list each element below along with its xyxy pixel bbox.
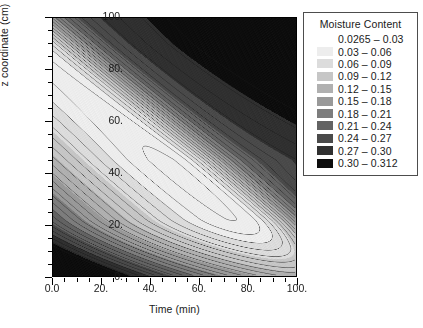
legend-entry: 0.18 – 0.21: [309, 107, 412, 119]
legend-color-swatch: [317, 146, 333, 155]
y-minor-tick-mark: [48, 199, 52, 200]
y-minor-tick-mark: [48, 95, 52, 96]
legend-color-swatch: [317, 109, 333, 118]
y-tick-mark: [45, 17, 52, 18]
y-tick-mark: [45, 173, 52, 174]
x-minor-tick-mark: [89, 278, 90, 282]
legend-entry: 0.06 – 0.09: [309, 58, 412, 70]
x-minor-tick-mark: [224, 278, 225, 282]
legend-entry: 0.24 – 0.27: [309, 132, 412, 144]
legend-entry-label: 0.06 – 0.09: [338, 58, 392, 70]
legend-color-swatch: [317, 121, 333, 130]
plot-area: [52, 17, 297, 277]
legend-entry-label: 0.30 – 0.312: [338, 157, 398, 169]
x-minor-tick-mark: [236, 278, 237, 282]
x-tick-label: 40.: [127, 282, 173, 294]
y-minor-tick-mark: [48, 147, 52, 148]
legend-entry: 0.12 – 0.15: [309, 83, 412, 95]
y-minor-tick-mark: [48, 251, 52, 252]
x-minor-tick-mark: [138, 278, 139, 282]
legend-color-swatch: [317, 159, 333, 168]
y-axis-title: z coordinate (cm): [0, 0, 10, 105]
moisture-heatmap-canvas: [53, 18, 296, 276]
legend-entry: 0.0265 – 0.03: [309, 33, 412, 45]
legend-title: Moisture Content: [309, 18, 412, 30]
x-tick-label: 20.: [78, 282, 124, 294]
y-minor-tick-mark: [48, 160, 52, 161]
legend-entry-label: 0.18 – 0.21: [338, 108, 392, 120]
x-minor-tick-mark: [175, 278, 176, 282]
y-minor-tick-mark: [48, 56, 52, 57]
x-minor-tick-mark: [113, 278, 114, 282]
y-minor-tick-mark: [48, 108, 52, 109]
y-tick-mark: [45, 121, 52, 122]
x-minor-tick-mark: [273, 278, 274, 282]
y-minor-tick-mark: [48, 134, 52, 135]
y-tick-label: 80.: [79, 62, 123, 74]
legend-color-swatch: [317, 35, 333, 44]
legend-entry-label: 0.09 – 0.12: [338, 70, 392, 82]
x-minor-tick-mark: [64, 278, 65, 282]
y-tick-label: 20.: [79, 218, 123, 230]
y-tick-label: 40.: [79, 166, 123, 178]
legend-color-swatch: [317, 59, 333, 68]
x-minor-tick-mark: [126, 278, 127, 282]
legend-entry-label: 0.15 – 0.18: [338, 95, 392, 107]
y-tick-label: 100.: [79, 10, 123, 22]
legend-entry-label: 0.0265 – 0.03: [338, 33, 404, 45]
legend-entry-label: 0.03 – 0.06: [338, 46, 392, 58]
legend-entry: 0.30 – 0.312: [309, 157, 412, 169]
legend-color-swatch: [317, 84, 333, 93]
legend-color-swatch: [317, 47, 333, 56]
x-tick-label: 0.0: [29, 282, 75, 294]
legend-entry: 0.09 – 0.12: [309, 70, 412, 82]
y-minor-tick-mark: [48, 212, 52, 213]
y-tick-mark: [45, 277, 52, 278]
contour-plot-figure: z coordinate (cm) 0.20.40.60.80.100. Tim…: [0, 0, 423, 328]
legend-entry-label: 0.27 – 0.30: [338, 145, 392, 157]
x-minor-tick-mark: [187, 278, 188, 282]
legend-entry: 0.27 – 0.30: [309, 145, 412, 157]
y-tick-label: 60.: [79, 114, 123, 126]
y-minor-tick-mark: [48, 82, 52, 83]
x-minor-tick-mark: [285, 278, 286, 282]
y-tick-mark: [45, 225, 52, 226]
legend-entry-label: 0.21 – 0.24: [338, 120, 392, 132]
y-minor-tick-mark: [48, 186, 52, 187]
legend-entry-label: 0.12 – 0.15: [338, 83, 392, 95]
x-minor-tick-mark: [162, 278, 163, 282]
legend-entry: 0.21 – 0.24: [309, 120, 412, 132]
color-legend: Moisture Content 0.0265 – 0.030.03 – 0.0…: [303, 12, 418, 176]
x-tick-label: 100.: [274, 282, 320, 294]
y-minor-tick-mark: [48, 264, 52, 265]
legend-color-swatch: [317, 97, 333, 106]
x-tick-label: 60.: [176, 282, 222, 294]
x-minor-tick-mark: [211, 278, 212, 282]
legend-color-swatch: [317, 72, 333, 81]
y-tick-mark: [45, 69, 52, 70]
legend-color-swatch: [317, 134, 333, 143]
legend-entries: 0.0265 – 0.030.03 – 0.060.06 – 0.090.09 …: [309, 33, 412, 169]
legend-entry: 0.03 – 0.06: [309, 45, 412, 57]
y-minor-tick-mark: [48, 43, 52, 44]
x-tick-label: 80.: [225, 282, 271, 294]
x-axis-title: Time (min): [52, 303, 297, 315]
y-minor-tick-mark: [48, 30, 52, 31]
x-minor-tick-mark: [77, 278, 78, 282]
y-minor-tick-mark: [48, 238, 52, 239]
x-minor-tick-mark: [260, 278, 261, 282]
legend-entry-label: 0.24 – 0.27: [338, 132, 392, 144]
legend-entry: 0.15 – 0.18: [309, 95, 412, 107]
